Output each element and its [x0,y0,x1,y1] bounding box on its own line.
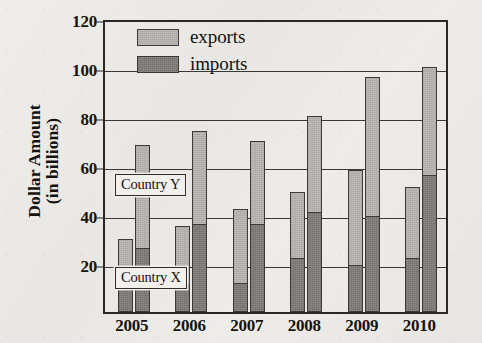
gridline [105,218,446,219]
segment-exports [422,67,437,175]
segment-imports [422,175,437,312]
bar-group-2008 [290,116,322,312]
legend-item-imports: imports [137,53,247,75]
segment-imports [348,265,363,312]
x-axis-tick-label: 2006 [173,316,206,336]
segment-exports [307,116,322,212]
bar-country-y-2007 [250,141,265,313]
segment-imports [233,283,248,312]
legend-swatch-exports-icon [137,29,179,46]
bar-country-y-2009 [365,77,380,312]
y-axis-tick-label: 100 [72,61,97,81]
segment-exports [233,209,248,283]
segment-imports [307,212,322,312]
y-axis-tick-label: 60 [80,159,97,179]
bar-group-2009 [348,77,380,312]
segment-imports [192,224,207,312]
segment-exports [348,170,363,266]
legend-label-exports: exports [190,26,245,48]
y-axis-tick-mark [96,267,105,268]
segment-exports [135,145,150,248]
x-axis-tick-label: 2005 [115,316,148,336]
bar-country-x-2009 [348,170,363,312]
gridline [105,169,446,170]
segment-imports [250,224,265,312]
y-axis-tick-mark [96,169,105,170]
y-axis-tick-mark [96,120,105,121]
y-axis-tick-mark [96,218,105,219]
legend: exports imports [137,26,247,75]
x-axis-tick-label: 2008 [288,316,321,336]
bar-country-y-2006 [192,131,207,312]
segment-exports [365,77,380,217]
segment-imports [175,285,190,312]
bar-country-y-2010 [422,67,437,312]
segment-imports [290,258,305,312]
bar-country-x-2008 [290,192,305,312]
y-axis-tick-label: 120 [72,12,97,32]
bar-group-2007 [233,141,265,313]
y-axis-title: Dollar Amount (in billions) [22,56,66,266]
segment-imports [405,258,420,312]
segment-exports [250,141,265,224]
segment-exports [290,192,305,258]
y-axis-tick-label: 80 [80,110,97,130]
x-axis-tick-label: 2010 [403,316,436,336]
bar-country-y-2008 [307,116,322,312]
segment-exports [405,187,420,258]
y-axis-title-line-2: (in billions) [44,118,62,204]
legend-item-exports: exports [137,26,247,48]
x-axis-tick-label: 2007 [230,316,263,336]
x-axis-tick-label: 2009 [345,316,378,336]
segment-exports [192,131,207,224]
y-axis-tick-label: 40 [80,208,97,228]
legend-swatch-imports-icon [137,56,179,73]
bar-chart: Dollar Amount (in billions) 204060801001… [0,0,482,343]
y-axis-tick-mark [96,22,105,23]
segment-imports [365,216,380,312]
bar-group-2010 [405,67,437,312]
y-axis-tick-label: 20 [80,257,97,277]
legend-label-imports: imports [190,53,247,75]
annotation-country-y: Country Y [115,174,186,196]
segment-imports [118,288,133,313]
y-axis-tick-mark [96,71,105,72]
bar-country-x-2007 [233,209,248,312]
gridline [105,120,446,121]
x-axis-labels: 200520062007200820092010 [103,316,448,343]
bar-country-x-2010 [405,187,420,312]
annotation-country-x: Country X [115,267,187,289]
